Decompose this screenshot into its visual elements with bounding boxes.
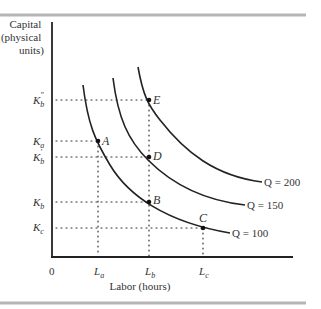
isoquant-q200 — [138, 67, 262, 182]
x-axis-label: Labor (hours) — [110, 280, 171, 293]
point-A — [96, 139, 101, 144]
point-label-E: E — [152, 93, 161, 107]
y-tick-Kb: Kb — [32, 196, 44, 211]
isoquant-label-q150: Q = 150 — [247, 199, 284, 211]
y-axis-label: Capital (physical units) — [1, 18, 44, 57]
point-label-A: A — [101, 134, 110, 148]
point-label-D: D — [152, 149, 162, 163]
point-label-C: C — [199, 211, 208, 225]
point-C — [201, 226, 206, 231]
y-tick-Kb2: Kb″ — [32, 91, 44, 109]
y-tick-Ka: Ka — [32, 135, 44, 150]
y-tick-Kc: Kc — [32, 221, 44, 236]
isoquant-diagram: Capital (physical units) A B C D E Q = 2… — [0, 0, 321, 309]
x-tick-Lc: Lc — [198, 265, 209, 280]
point-label-B: B — [153, 193, 161, 207]
isoquant-label-q200: Q = 200 — [264, 176, 301, 188]
x-tick-La: La — [93, 265, 104, 280]
origin-label: 0 — [49, 265, 55, 277]
isoquant-label-q100: Q = 100 — [232, 227, 269, 239]
x-tick-Lb: Lb — [144, 265, 155, 280]
point-D — [147, 155, 152, 160]
y-tick-Kb1: Kb′ — [32, 148, 44, 166]
point-E — [147, 98, 152, 103]
point-B — [147, 200, 152, 205]
